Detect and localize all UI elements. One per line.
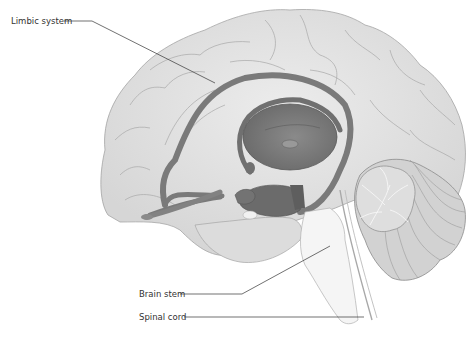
brain-diagram	[0, 0, 475, 346]
label-limbic-system: Limbic system	[11, 16, 72, 26]
label-spinal-cord: Spinal cord	[139, 312, 186, 322]
label-brain-stem: Brain stem	[139, 289, 185, 299]
